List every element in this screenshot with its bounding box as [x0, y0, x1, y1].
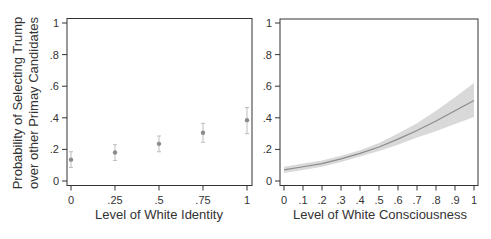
- x-tick-label: .3: [336, 194, 345, 206]
- left-x-axis: 0.25.5.751: [68, 186, 250, 206]
- x-tick-label: .6: [393, 194, 402, 206]
- x-tick-label: .1: [298, 194, 307, 206]
- left-plot-frame: [67, 19, 252, 186]
- data-point: [157, 142, 161, 146]
- x-tick-label: 1: [244, 194, 250, 206]
- x-tick-label: .5: [374, 194, 383, 206]
- data-point: [69, 157, 73, 161]
- y-tick-label: .2: [263, 143, 272, 155]
- y-tick-label: .4: [263, 112, 272, 124]
- x-tick-label: .75: [195, 194, 210, 206]
- right-panel: 0.2.4.6.81 0.1.2.3.4.5.6.7.8.91 Level of…: [263, 17, 478, 222]
- x-tick-label: .25: [107, 194, 122, 206]
- y-axis-title-line-1: Probability of Selecting Trump: [10, 17, 25, 190]
- y-tick-label: .4: [50, 112, 59, 124]
- y-tick-label: .6: [50, 80, 59, 92]
- y-tick-label: .8: [263, 49, 272, 61]
- y-axis-title: Probability of Selecting Trump over othe…: [10, 17, 41, 190]
- x-tick-label: .9: [450, 194, 459, 206]
- y-tick-label: 1: [53, 17, 59, 29]
- y-tick-label: .8: [50, 49, 59, 61]
- y-axis-title-line-2: over other Primay Candidates: [26, 17, 41, 189]
- y-tick-label: 0: [53, 175, 59, 187]
- data-point: [201, 131, 205, 135]
- right-y-axis: 0.2.4.6.81: [263, 17, 280, 187]
- chart-canvas: Probability of Selecting Trump over othe…: [0, 0, 491, 239]
- left-y-axis: 0.2.4.6.81: [50, 17, 67, 187]
- left-panel: 0.2.4.6.81 0.25.5.751 Level of White Ide…: [50, 17, 252, 222]
- x-tick-label: .2: [317, 194, 326, 206]
- y-tick-label: .2: [50, 143, 59, 155]
- y-tick-label: .6: [263, 80, 272, 92]
- data-point: [113, 150, 117, 154]
- x-tick-label: 0: [281, 194, 287, 206]
- x-tick-label: .8: [431, 194, 440, 206]
- right-x-axis-title: Level of White Consciousness: [293, 207, 468, 222]
- data-point: [245, 118, 249, 122]
- right-x-axis: 0.1.2.3.4.5.6.7.8.91: [281, 186, 477, 206]
- y-tick-label: 1: [266, 17, 272, 29]
- x-tick-label: .5: [154, 194, 163, 206]
- left-x-axis-title: Level of White Identity: [95, 207, 223, 222]
- x-tick-label: .7: [412, 194, 421, 206]
- y-tick-label: 0: [266, 175, 272, 187]
- x-tick-label: .4: [355, 194, 364, 206]
- x-tick-label: 0: [68, 194, 74, 206]
- x-tick-label: 1: [471, 194, 477, 206]
